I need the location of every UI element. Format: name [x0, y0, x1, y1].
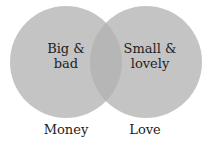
money-region-text: Big & bad: [26, 41, 106, 71]
money-region-line2: bad: [26, 56, 106, 71]
venn-diagram: Big & bad Small & lovely Money Love: [0, 0, 209, 147]
love-region-line2: lovely: [110, 56, 190, 71]
money-set-label: Money: [26, 122, 106, 137]
love-region-line1: Small &: [110, 41, 190, 56]
money-region-line1: Big &: [26, 41, 106, 56]
love-set-label: Love: [105, 122, 185, 137]
love-region-text: Small & lovely: [110, 41, 190, 71]
